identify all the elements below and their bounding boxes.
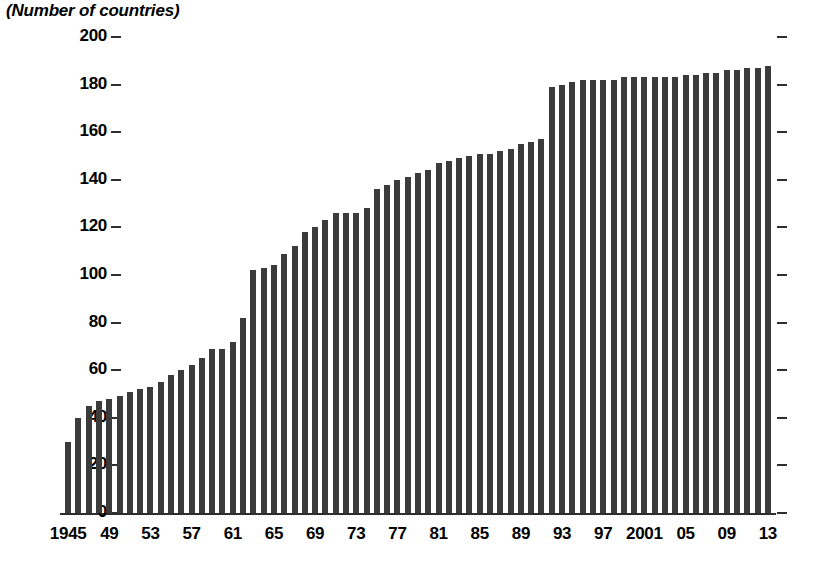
bar (693, 75, 699, 513)
bar (755, 68, 761, 513)
bar (65, 442, 71, 513)
bar (394, 180, 400, 513)
bar (652, 77, 658, 513)
y-axis-tick-mark-right (777, 512, 787, 514)
bar (497, 151, 503, 513)
bar (86, 406, 92, 513)
x-axis-tick-label: 13 (759, 524, 777, 544)
bar (178, 370, 184, 513)
bar (611, 80, 617, 513)
bar (261, 268, 267, 513)
bar (641, 77, 647, 513)
y-axis-tick-mark-left (111, 84, 121, 86)
x-axis-tick-label: 61 (224, 524, 242, 544)
x-axis-tick-label: 09 (718, 524, 736, 544)
y-axis-tick-label: 200 (80, 26, 107, 46)
bar (672, 77, 678, 513)
x-axis-tick-label: 1945 (50, 524, 87, 544)
y-axis-tick-label: 80 (89, 312, 107, 332)
bar (466, 156, 472, 513)
bar (621, 77, 627, 513)
y-axis-tick-mark-right (777, 417, 787, 419)
y-axis-tick-mark-right (777, 131, 787, 133)
x-axis-tick-label: 81 (429, 524, 447, 544)
bar (713, 73, 719, 513)
y-axis-tick-mark-left (111, 322, 121, 324)
y-axis-tick-label: 60 (89, 359, 107, 379)
bar (240, 318, 246, 513)
y-axis-tick-mark-right (777, 226, 787, 228)
y-axis-tick-mark-right (777, 84, 787, 86)
bar (744, 68, 750, 513)
bar (734, 70, 740, 513)
x-axis-tick-label: 53 (141, 524, 159, 544)
y-axis-tick-label: 140 (80, 169, 107, 189)
bar (724, 70, 730, 513)
bar (189, 365, 195, 513)
bar (384, 185, 390, 513)
bar (374, 189, 380, 513)
x-axis-tick-label: 77 (388, 524, 406, 544)
x-axis-tick-label: 89 (512, 524, 530, 544)
bar (127, 392, 133, 513)
bar (199, 358, 205, 513)
y-axis-tick-mark-left (111, 36, 121, 38)
x-axis-tick-label: 93 (553, 524, 571, 544)
bar (322, 220, 328, 513)
bar (137, 389, 143, 513)
y-axis-tick-label: 160 (80, 121, 107, 141)
bar (219, 349, 225, 513)
x-axis-tick-label: 49 (100, 524, 118, 544)
y-axis-tick-mark-right (777, 322, 787, 324)
chart-container: (Number of countries) 020406080100120140… (0, 0, 818, 572)
bar (683, 75, 689, 513)
bar (168, 375, 174, 513)
bar (662, 77, 668, 513)
y-axis-tick-mark-right (777, 464, 787, 466)
bar (518, 144, 524, 513)
bar (158, 382, 164, 513)
bar (343, 213, 349, 513)
bar (106, 399, 112, 513)
x-axis-tick-label: 57 (182, 524, 200, 544)
bar (117, 396, 123, 513)
bar (508, 149, 514, 513)
bar (436, 163, 442, 513)
x-axis-tick-label: 85 (471, 524, 489, 544)
bar (569, 82, 575, 513)
bar (271, 265, 277, 513)
bar (364, 208, 370, 513)
x-axis-tick-label: 65 (265, 524, 283, 544)
plot-area: 020406080100120140160180200 (63, 37, 773, 513)
x-axis-tick-label: 97 (594, 524, 612, 544)
bar (487, 154, 493, 513)
y-axis-tick-mark-left (111, 131, 121, 133)
bar (96, 401, 102, 513)
bar (147, 387, 153, 513)
x-axis-baseline (60, 513, 776, 515)
x-axis-tick-label: 2001 (626, 524, 663, 544)
bar (580, 80, 586, 513)
bar (292, 246, 298, 513)
bar (590, 80, 596, 513)
y-axis-tick-mark-left (111, 274, 121, 276)
x-axis-tick-label: 73 (347, 524, 365, 544)
bar (456, 158, 462, 513)
bar (353, 213, 359, 513)
bar (209, 349, 215, 513)
y-axis-tick-mark-left (111, 179, 121, 181)
bar (765, 66, 771, 513)
bar (405, 177, 411, 513)
bar (477, 154, 483, 513)
y-axis-tick-mark-right (777, 179, 787, 181)
y-axis-tick-mark-right (777, 36, 787, 38)
bar (281, 254, 287, 513)
bar (230, 342, 236, 513)
y-axis-tick-label: 180 (80, 74, 107, 94)
y-axis-tick-label: 120 (80, 216, 107, 236)
x-axis-tick-label: 05 (676, 524, 694, 544)
y-axis-tick-mark-left (111, 226, 121, 228)
y-axis-tick-mark-right (777, 369, 787, 371)
y-axis-tick-label: 100 (80, 264, 107, 284)
y-axis-tick-mark-left (111, 369, 121, 371)
